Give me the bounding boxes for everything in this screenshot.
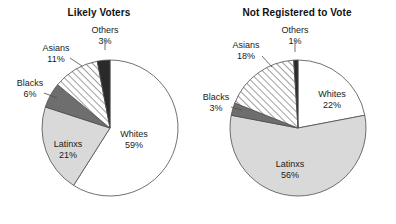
slice-label-blacks: Blacks6% [17,78,44,99]
leader-line-asians [70,58,82,66]
pie-svg-likely-voters: Whites59%Latinxs21%Blacks6%Asians11%Othe… [0,0,198,224]
slice-label-others: Others1% [281,25,309,46]
leader-line-asians [262,56,272,67]
pie-wedges-likely-voters [42,60,178,196]
chart-panel-not-registered: Not Registered to Vote Whites22%Latinxs5… [198,0,396,224]
slice-label-others: Others3% [91,25,119,46]
slice-label-blacks: Blacks3% [203,92,230,113]
chart-panel-likely-voters: Likely Voters Whites59%Latinxs21%Blacks6… [0,0,198,224]
pie-chart-figure: Likely Voters Whites59%Latinxs21%Blacks6… [0,0,396,224]
pie-svg-not-registered: Whites22%Latinxs56%Blacks3%Asians18%Othe… [198,0,396,224]
slice-label-asians: Asians11% [42,43,70,64]
slice-label-asians: Asians18% [232,40,260,61]
